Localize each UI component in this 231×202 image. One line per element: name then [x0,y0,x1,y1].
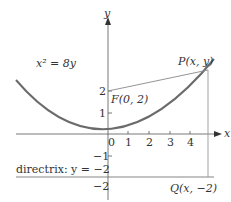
x-tick-label-3: 3 [167,137,174,148]
directrix-label: directrix: y = −2 [16,164,110,175]
parabola-diagram: y x x² = 8y P(x, y) F(0, 2) directrix: y… [0,0,231,202]
origin-label: 0 [108,137,115,148]
y-tick-label-neg2: −2 [93,181,109,192]
point-p-label: P(x, y) [178,56,213,67]
x-axis-arrow-icon [214,131,222,137]
y-tick-label-2: 2 [99,86,106,97]
x-tick-label-1: 1 [125,137,132,148]
point-q-label: Q(x, −2) [170,183,217,194]
x-axis-label: x [224,128,230,139]
focus-label: F(0, 2) [111,94,148,105]
x-tick-label-2: 2 [146,137,153,148]
y-tick-label-neg1: −1 [93,151,109,162]
segment-fp [108,70,208,91]
y-tick-label-1: 1 [99,108,106,119]
y-axis-label: y [104,8,110,19]
x-tick-label-4: 4 [187,137,194,148]
equation-label: x² = 8y [36,58,76,69]
x-ticks [128,131,190,134]
